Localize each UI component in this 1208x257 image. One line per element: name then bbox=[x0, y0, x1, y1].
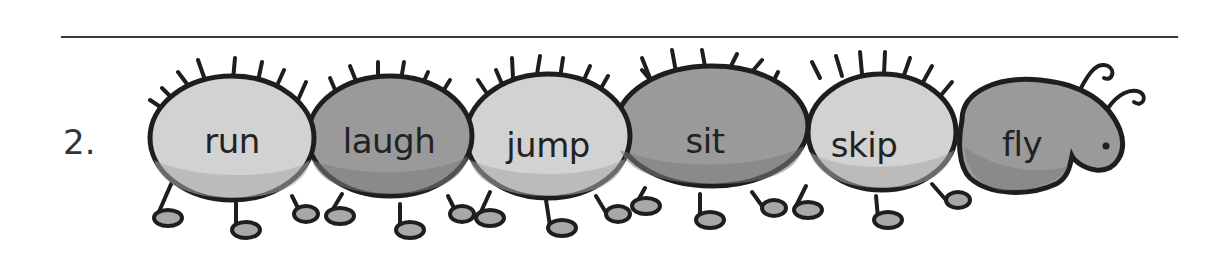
segment-word-jump: jump bbox=[506, 125, 590, 165]
segment-word-run: run bbox=[204, 121, 260, 161]
segment-word-skip: skip bbox=[831, 125, 897, 165]
segment-word-sit: sit bbox=[686, 121, 725, 161]
segment-word-laugh: laugh bbox=[343, 121, 435, 161]
segment-word-fly: fly bbox=[1002, 124, 1042, 164]
eye-icon bbox=[1103, 143, 1110, 150]
